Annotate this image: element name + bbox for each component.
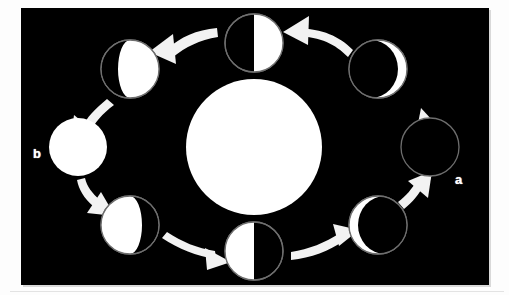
moon-b-full bbox=[49, 118, 107, 176]
moon-waxing-gibbous bbox=[101, 40, 159, 98]
label-a: a bbox=[455, 173, 462, 186]
moon-last-quarter bbox=[222, 220, 283, 284]
arrow-waning-crescent-to-new bbox=[398, 171, 432, 209]
moon-a-new bbox=[401, 118, 459, 176]
moon-phase-diagram bbox=[21, 8, 489, 285]
page-divider bbox=[10, 291, 504, 292]
moon-waning-gibbous bbox=[101, 196, 159, 254]
figure-root: b a bbox=[0, 0, 509, 295]
arrow-first-q-to-waxing-gibbous bbox=[149, 28, 218, 64]
arrow-waxing-crescent-to-first-q bbox=[283, 16, 353, 57]
diagram-panel: b a bbox=[21, 8, 489, 285]
sun bbox=[186, 79, 322, 215]
arrow-waning-gibbous-to-last-q bbox=[162, 232, 231, 270]
moon-first-quarter bbox=[225, 12, 286, 76]
label-b: b bbox=[33, 147, 41, 160]
moon-waxing-crescent bbox=[344, 40, 407, 98]
